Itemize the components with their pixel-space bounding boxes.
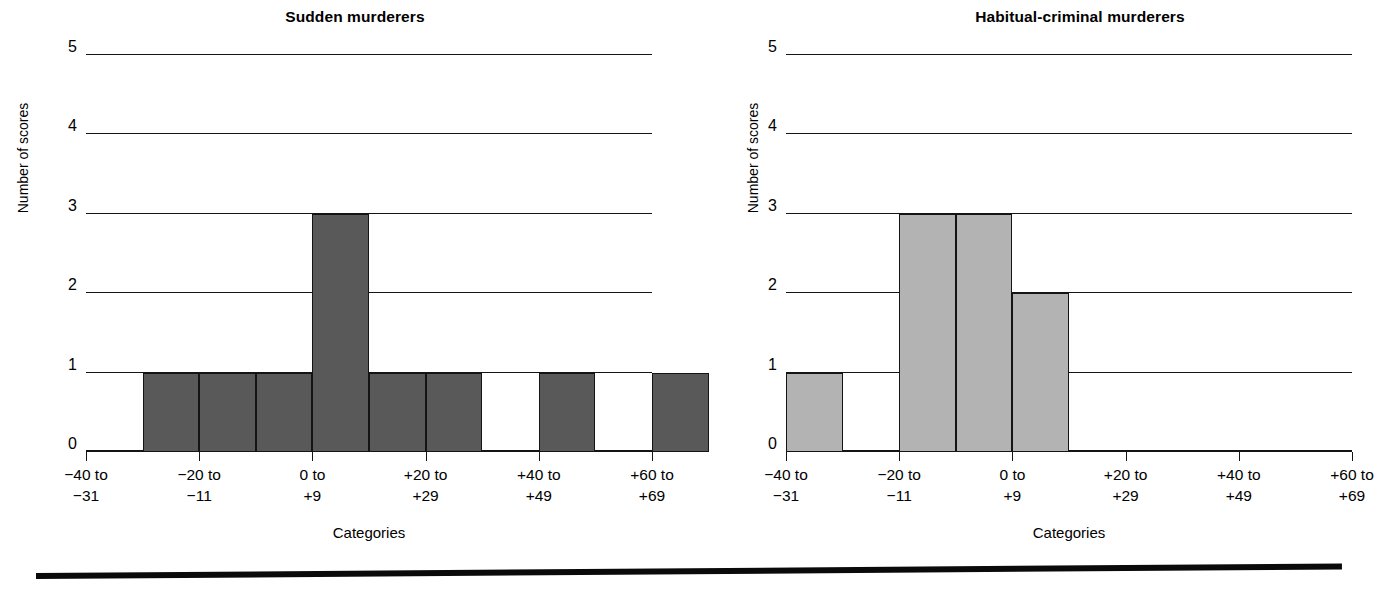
- x-tick-label-line2: −11: [177, 486, 221, 507]
- y-tick-label-5: 5: [768, 39, 777, 55]
- x-tick-mark: [199, 452, 200, 461]
- y-tick-label-4: 4: [768, 118, 777, 134]
- bar: [199, 373, 256, 452]
- y-axis-label-right: Number of scores: [745, 78, 761, 238]
- x-tick-mark: [899, 452, 900, 461]
- x-tick-label: 0 to+9: [999, 465, 1025, 507]
- bar: [256, 373, 313, 452]
- bars-layer-left: [86, 55, 652, 452]
- y-tick-label-2: 2: [768, 277, 777, 293]
- x-tick-label-line2: −11: [877, 486, 921, 507]
- y-tick-label-0: 0: [68, 436, 77, 452]
- x-tick-mark: [1352, 452, 1353, 461]
- y-tick-label-1: 1: [68, 357, 77, 373]
- plot-area-right: Categories 543210−40 to−31−20 to−110 to+…: [786, 55, 1352, 452]
- x-tick-mark: [86, 452, 87, 461]
- bar: [786, 373, 843, 452]
- y-tick-label-0: 0: [768, 436, 777, 452]
- x-tick-mark: [1126, 452, 1127, 461]
- x-tick-label-line2: −31: [764, 486, 808, 507]
- x-tick-label-line1: −20 to: [177, 466, 221, 483]
- x-tick-label-line2: +49: [1217, 486, 1261, 507]
- chart-panel-habitual-criminal-murderers: Habitual-criminal murderers Number of sc…: [690, 0, 1370, 560]
- x-tick-label-line2: +69: [1330, 486, 1374, 507]
- bar: [369, 373, 426, 452]
- y-tick-label-1: 1: [768, 357, 777, 373]
- y-tick-label-5: 5: [68, 39, 77, 55]
- x-tick-label: −40 to−31: [64, 465, 108, 507]
- plot-area-left: Categories 543210−40 to−31−20 to−110 to+…: [86, 55, 652, 452]
- x-axis-ticks-left: [86, 452, 652, 461]
- chart-panel-sudden-murderers: Sudden murderers Number of scores Catego…: [0, 0, 690, 560]
- bar: [143, 373, 200, 452]
- x-tick-label: +20 to+29: [404, 465, 448, 507]
- x-tick-label-line1: −20 to: [877, 466, 921, 483]
- x-tick-label: +20 to+29: [1104, 465, 1148, 507]
- page-title-left: Sudden murderers: [0, 8, 700, 26]
- x-axis-label-right: Categories: [786, 524, 1352, 541]
- bottom-rule: [36, 563, 1342, 579]
- x-tick-label-line2: +69: [630, 486, 674, 507]
- x-tick-label: +40 to+49: [1217, 465, 1261, 507]
- x-tick-label-line1: 0 to: [999, 466, 1025, 483]
- x-tick-mark: [426, 452, 427, 461]
- x-tick-label: −20 to−11: [177, 465, 221, 507]
- x-tick-mark: [786, 452, 787, 461]
- x-tick-mark: [1012, 452, 1013, 461]
- bars-layer-right: [786, 55, 1352, 452]
- bar: [956, 214, 1013, 452]
- x-tick-mark: [312, 452, 313, 461]
- x-tick-mark: [539, 452, 540, 461]
- x-tick-label: +60 to+69: [1330, 465, 1374, 507]
- x-tick-mark: [652, 452, 653, 461]
- x-tick-label: +40 to+49: [517, 465, 561, 507]
- y-tick-label-3: 3: [768, 198, 777, 214]
- x-tick-label-line1: +20 to: [404, 466, 448, 483]
- bar: [899, 214, 956, 452]
- y-tick-label-4: 4: [68, 118, 77, 134]
- x-axis-label-left: Categories: [86, 524, 652, 541]
- x-tick-label-line2: +49: [517, 486, 561, 507]
- page-title-right: Habitual-criminal murderers: [690, 8, 1378, 26]
- x-tick-label: +60 to+69: [630, 465, 674, 507]
- x-tick-label-line2: +9: [299, 486, 325, 507]
- x-tick-mark: [1239, 452, 1240, 461]
- x-tick-label-line1: +40 to: [1217, 466, 1261, 483]
- x-tick-label-line2: +29: [1104, 486, 1148, 507]
- x-tick-label-line1: 0 to: [299, 466, 325, 483]
- x-tick-label: −40 to−31: [764, 465, 808, 507]
- bar: [1012, 293, 1069, 452]
- bar: [539, 373, 596, 452]
- x-tick-label: −20 to−11: [877, 465, 921, 507]
- x-tick-label-line1: −40 to: [764, 466, 808, 483]
- x-tick-label-line1: +20 to: [1104, 466, 1148, 483]
- y-tick-label-2: 2: [68, 277, 77, 293]
- bar: [312, 214, 369, 452]
- x-tick-label-line2: +9: [999, 486, 1025, 507]
- x-tick-label-line1: +60 to: [630, 466, 674, 483]
- x-tick-label-line1: −40 to: [64, 466, 108, 483]
- bar: [426, 373, 483, 452]
- x-tick-label-line2: +29: [404, 486, 448, 507]
- x-tick-label-line2: −31: [64, 486, 108, 507]
- y-tick-label-3: 3: [68, 198, 77, 214]
- x-tick-label-line1: +40 to: [517, 466, 561, 483]
- x-tick-label-line1: +60 to: [1330, 466, 1374, 483]
- x-tick-label: 0 to+9: [299, 465, 325, 507]
- y-axis-label-left: Number of scores: [15, 78, 31, 238]
- x-axis-ticks-right: [786, 452, 1352, 461]
